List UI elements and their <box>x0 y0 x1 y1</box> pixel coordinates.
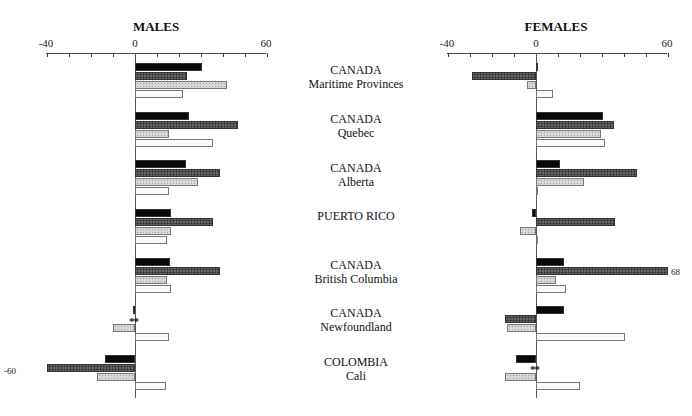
group-label-line1: PUERTO RICO <box>290 209 422 223</box>
males-tick-mark <box>47 53 48 57</box>
females-bar <box>536 178 584 186</box>
females-bar <box>536 306 564 314</box>
group-label-line1: CANADA <box>290 258 422 272</box>
group-label-line1: COLOMBIA <box>290 355 422 369</box>
males-tick-mark <box>113 53 114 57</box>
females-tick-mark <box>558 53 559 57</box>
females-tick-zero: 0 <box>533 37 539 49</box>
females-bar <box>536 63 538 71</box>
females-bar <box>536 121 614 129</box>
females-bar <box>472 72 536 80</box>
males-tick-mark <box>157 53 158 57</box>
females-tick-mark <box>602 53 603 57</box>
males-bar <box>135 121 238 129</box>
females-bar <box>520 227 537 235</box>
males-bar <box>135 187 169 195</box>
males-tick-mark <box>201 53 202 57</box>
females-tick-mark <box>492 53 493 57</box>
males-tick-mark <box>179 53 180 57</box>
females-tick-mark <box>448 53 449 57</box>
females-bar <box>505 315 536 323</box>
females-bar <box>536 112 603 120</box>
group-label-puerto-rico: PUERTO RICO <box>290 209 422 223</box>
males-bar <box>135 209 171 217</box>
males-bar <box>135 63 202 71</box>
females-x-axis <box>447 53 667 54</box>
females-tick-mark <box>580 53 581 57</box>
males-bar <box>135 90 183 98</box>
females-bar <box>536 258 564 266</box>
males-bar <box>135 112 189 120</box>
males-tick-max: 60 <box>261 37 272 49</box>
females-bar <box>536 285 566 293</box>
females-bc-truncation-label: 68 <box>671 267 680 277</box>
females-tick-mark <box>514 53 515 57</box>
males-bar <box>133 306 135 314</box>
females-bar <box>516 355 536 363</box>
group-label-line1: CANADA <box>290 161 422 175</box>
females-tick-mark <box>470 53 471 57</box>
females-bar <box>536 90 553 98</box>
females-tick-min: -40 <box>440 37 455 49</box>
females-bar <box>536 139 605 147</box>
females-bar <box>507 324 536 332</box>
males-bar <box>135 130 169 138</box>
females-tick-max: 60 <box>662 37 673 49</box>
males-bar <box>135 81 227 89</box>
group-label-line1: CANADA <box>290 112 422 126</box>
males-cali-truncation-label: -60 <box>4 366 16 376</box>
males-tick-mark <box>69 53 70 57</box>
females-bar <box>536 169 637 177</box>
males-bar <box>135 218 213 226</box>
group-label-british-columbia: CANADA British Columbia <box>290 258 422 286</box>
group-label-alberta: CANADA Alberta <box>290 161 422 189</box>
males-bar <box>135 276 167 284</box>
males-tick-min: -40 <box>39 37 54 49</box>
group-label-line2: Newfoundland <box>290 320 422 334</box>
females-panel-title: FEMALES <box>525 19 588 35</box>
males-tick-mark <box>267 53 268 57</box>
females-bar <box>536 333 625 341</box>
males-panel-title: MALES <box>133 19 179 35</box>
females-bar <box>536 382 580 390</box>
females-bar <box>536 236 538 244</box>
males-bar <box>135 285 171 293</box>
group-label-line2: British Columbia <box>290 272 422 286</box>
females-bar <box>536 160 560 168</box>
males-tick-mark <box>223 53 224 57</box>
males-newfoundland-missing-marker: ** <box>129 315 138 327</box>
group-label-line2: Cali <box>290 369 422 383</box>
males-bar <box>135 72 187 80</box>
females-cali-missing-marker: ** <box>530 363 539 375</box>
males-bar <box>135 139 213 147</box>
group-label-line2: Quebec <box>290 126 422 140</box>
group-label-line2: Alberta <box>290 175 422 189</box>
males-tick-zero: 0 <box>132 37 138 49</box>
females-bar <box>536 218 615 226</box>
males-bar <box>105 355 135 363</box>
group-label-newfoundland: CANADA Newfoundland <box>290 306 422 334</box>
males-bar <box>47 364 135 372</box>
females-bar <box>536 187 538 195</box>
males-bar <box>135 160 186 168</box>
males-bar <box>135 258 170 266</box>
females-tick-mark <box>624 53 625 57</box>
females-bar <box>536 267 668 275</box>
females-bar <box>532 209 536 217</box>
females-tick-mark <box>668 53 669 57</box>
females-bar <box>536 276 556 284</box>
males-bar <box>135 169 220 177</box>
males-tick-mark <box>91 53 92 57</box>
group-label-line2: Maritime Provinces <box>290 77 422 91</box>
females-bar <box>527 81 536 89</box>
group-label-colombia-cali: COLOMBIA Cali <box>290 355 422 383</box>
females-tick-mark <box>646 53 647 57</box>
males-bar <box>135 227 171 235</box>
group-label-line1: CANADA <box>290 306 422 320</box>
females-bar <box>536 130 601 138</box>
males-x-axis <box>46 53 266 54</box>
males-tick-mark <box>245 53 246 57</box>
group-label-line1: CANADA <box>290 63 422 77</box>
group-label-maritime: CANADA Maritime Provinces <box>290 63 422 91</box>
group-label-quebec: CANADA Quebec <box>290 112 422 140</box>
